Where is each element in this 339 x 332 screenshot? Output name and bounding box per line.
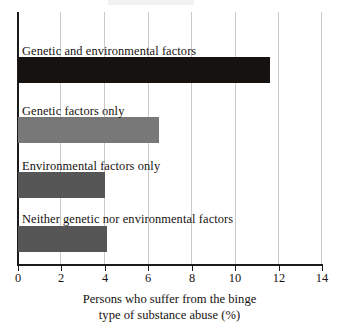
bar-environmental-only	[18, 172, 105, 198]
x-tick-label: 8	[179, 271, 205, 285]
category-label-genetic-and-environmental: Genetic and environmental factors	[22, 45, 196, 58]
x-tick-label: 10	[222, 271, 248, 285]
x-axis-line	[17, 264, 323, 266]
x-axis-title: Persons who suffer from the binge type o…	[0, 291, 339, 323]
x-tick-label: 2	[48, 271, 74, 285]
bar-genetic-only	[18, 117, 159, 143]
x-axis-title-line-2: type of substance abuse (%)	[0, 307, 339, 323]
bar-genetic-and-environmental	[18, 57, 270, 83]
category-label-environmental-only: Environmental factors only	[22, 160, 160, 173]
category-label-genetic-only: Genetic factors only	[22, 105, 124, 118]
x-tick-label: 14	[309, 271, 335, 285]
gridline	[278, 12, 279, 265]
x-axis-title-line-1: Persons who suffer from the binge	[0, 291, 339, 307]
gridline	[235, 12, 236, 265]
category-label-neither: Neither genetic nor environmental factor…	[22, 213, 233, 226]
x-tick-label: 0	[5, 271, 31, 285]
x-tick-label: 12	[266, 271, 292, 285]
bar-neither	[18, 226, 107, 252]
bar-chart: Genetic and environmental factors Geneti…	[0, 0, 339, 332]
top-artifact	[108, 0, 194, 5]
x-tick-label: 6	[135, 271, 161, 285]
x-tick-label: 4	[92, 271, 118, 285]
gridline	[321, 12, 322, 265]
